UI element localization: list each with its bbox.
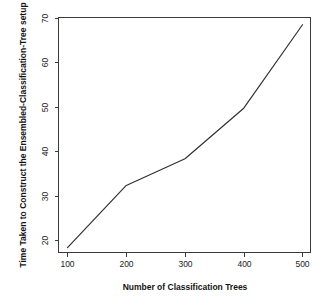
x-tick-label-200: 200 bbox=[119, 259, 133, 269]
y-tick-label-40: 40 bbox=[40, 147, 50, 157]
data-series-line bbox=[68, 25, 303, 248]
line-chart-plot: 70 60 50 40 30 20 100 200 300 400 500 Nu… bbox=[0, 0, 325, 302]
x-tick-label-500: 500 bbox=[295, 259, 309, 269]
y-tick-label-20: 20 bbox=[40, 236, 50, 246]
x-tick-label-400: 400 bbox=[237, 259, 251, 269]
y-axis-tick-labels: 70 60 50 40 30 20 bbox=[40, 14, 50, 246]
x-axis-ticks bbox=[68, 253, 303, 257]
y-tick-label-60: 60 bbox=[40, 58, 50, 68]
x-tick-label-300: 300 bbox=[178, 259, 192, 269]
x-axis-title: Number of Classification Trees bbox=[123, 282, 248, 292]
y-tick-label-50: 50 bbox=[40, 103, 50, 113]
y-tick-label-70: 70 bbox=[40, 14, 50, 24]
chart-container: 70 60 50 40 30 20 100 200 300 400 500 Nu… bbox=[0, 0, 325, 302]
y-tick-label-30: 30 bbox=[40, 192, 50, 202]
y-axis-title: Time Taken to Construct the Ensembled-Cl… bbox=[18, 2, 28, 267]
y-axis-ticks bbox=[55, 19, 59, 241]
x-tick-label-100: 100 bbox=[60, 259, 74, 269]
x-axis-tick-labels: 100 200 300 400 500 bbox=[60, 259, 309, 269]
